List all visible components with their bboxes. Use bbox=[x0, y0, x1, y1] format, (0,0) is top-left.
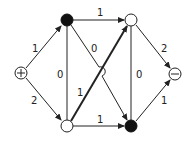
label-edge-d-sink: 1 bbox=[161, 95, 167, 106]
label-edge-source-b: 2 bbox=[31, 95, 37, 106]
label-edge-c-d: 0 bbox=[136, 69, 142, 80]
label-edge-a-c: 1 bbox=[97, 7, 103, 18]
node-b bbox=[61, 120, 73, 132]
label-edge-a-d: 0 bbox=[91, 43, 97, 54]
node-c bbox=[125, 14, 137, 26]
label-edge-source-a: 1 bbox=[32, 43, 38, 54]
node-d bbox=[125, 120, 137, 132]
diagram-svg: 1 2 1 0 0 1 1 0 2 1 bbox=[0, 0, 191, 142]
node-a bbox=[61, 14, 73, 26]
node-sink bbox=[169, 68, 181, 80]
flow-network-diagram: 1 2 1 0 0 1 1 0 2 1 bbox=[0, 0, 191, 142]
node-source bbox=[15, 67, 27, 79]
label-edge-b-d: 1 bbox=[97, 114, 103, 125]
label-edge-c-sink: 2 bbox=[161, 43, 167, 54]
label-edge-a-b: 0 bbox=[57, 69, 63, 80]
label-edge-b-c: 1 bbox=[77, 87, 83, 98]
edge-b-c bbox=[71, 26, 127, 121]
